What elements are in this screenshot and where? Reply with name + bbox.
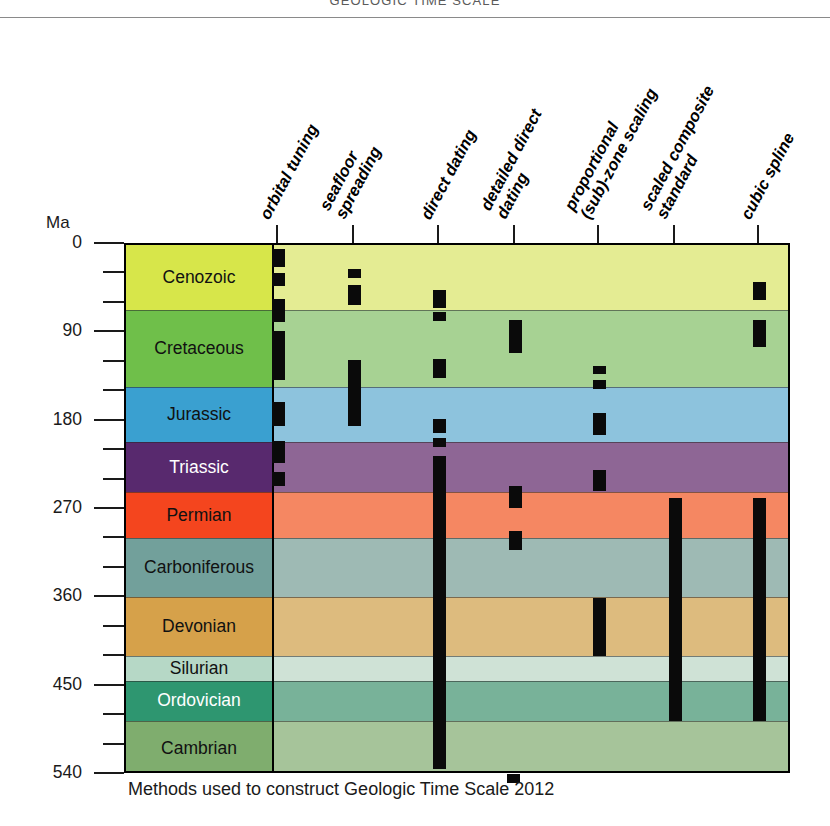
column-tick-direct-dating [437,225,439,243]
period-label-cambrian: Cambrian [126,721,272,773]
method-mark-detailed-direct-dating [509,320,522,353]
axis-tick-minor [103,448,124,450]
method-mark-proportional-zone-scaling [593,470,606,492]
period-boundary-line [126,721,788,722]
axis-tick-major [94,242,124,244]
column-tick-detailed-direct-dating [513,225,515,243]
method-mark-cubic-spline [753,320,766,347]
period-boundary-line [126,538,788,539]
period-plot-strip [272,597,788,656]
method-mark-proportional-zone-scaling [593,380,606,389]
period-band: Triassic [126,442,788,492]
column-headers: orbital tuningseafloor spreadingdirect d… [0,0,830,243]
axis-tick-minor [103,271,124,273]
method-mark-seafloor-spreading [348,269,361,279]
axis-tick-major [94,595,124,597]
method-mark-seafloor-spreading [348,360,361,426]
method-mark-seafloor-spreading [348,285,361,305]
period-label-permian: Permian [126,492,272,538]
axis-tick-minor [103,536,124,538]
method-mark-direct-dating [433,419,446,434]
plot-area: CenozoicCretaceousJurassicTriassicPermia… [124,243,790,773]
period-band: Carboniferous [126,538,788,597]
column-tick-cubic-spline [757,225,759,243]
name-column-divider [272,245,274,771]
period-band: Silurian [126,656,788,681]
period-plot-strip [272,538,788,597]
axis-tick-major [94,507,124,509]
method-mark-scaled-composite-standard [669,498,682,721]
period-plot-strip [272,656,788,681]
method-mark-proportional-zone-scaling [593,598,606,656]
period-band: Devonian [126,597,788,656]
period-plot-strip [272,442,788,492]
axis-tick-label: 270 [20,497,82,518]
period-band: Permian [126,492,788,538]
column-header-detailed-direct-dating[interactable]: detailed direct dating [476,106,561,222]
axis-tick-minor [103,713,124,715]
period-label-cenozoic: Cenozoic [126,245,272,310]
axis-tick-minor [103,301,124,303]
axis-tick-major [94,772,124,774]
axis-tick-minor [103,625,124,627]
column-tick-scaled-composite-standard [673,225,675,243]
column-header-seafloor-spreading[interactable]: seafloor spreading [315,135,385,222]
period-label-jurassic: Jurassic [126,387,272,442]
period-boundary-line [126,387,788,388]
method-mark-orbital-tuning [272,273,285,286]
axis-tick-major [94,419,124,421]
period-boundary-line [126,492,788,493]
method-mark-direct-dating [433,290,446,308]
method-mark-orbital-tuning [272,331,285,380]
method-mark-orbital-tuning [272,441,285,463]
method-mark-proportional-zone-scaling [593,413,606,436]
period-plot-strip [272,721,788,773]
axis-tick-major [94,330,124,332]
axis-unit-label: Ma [46,213,70,233]
figure-caption: Methods used to construct Geologic Time … [128,779,554,800]
period-plot-strip [272,492,788,538]
period-band: Ordovician [126,681,788,721]
method-mark-cubic-spline [753,282,766,300]
method-mark-direct-dating [433,456,446,769]
period-band: Jurassic [126,387,788,442]
method-mark-direct-dating [433,312,446,321]
axis-tick-label: 180 [20,409,82,430]
axis-tick-minor [103,566,124,568]
period-boundary-line [126,656,788,657]
method-mark-cubic-spline [753,498,766,721]
method-mark-direct-dating [433,438,446,447]
method-mark-orbital-tuning [272,472,285,487]
period-label-carboniferous: Carboniferous [126,538,272,597]
method-mark-detailed-direct-dating [509,531,522,551]
column-header-direct-dating[interactable]: direct dating [417,126,480,222]
axis-tick-label: 540 [20,762,82,783]
period-band: Cambrian [126,721,788,773]
geologic-time-scale-figure: GEOLOGIC TIME SCALE orbital tuningseaflo… [0,0,830,826]
period-plot-strip [272,681,788,721]
method-mark-orbital-tuning [272,299,285,322]
axis-tick-minor [103,654,124,656]
axis-tick-label: 450 [20,674,82,695]
method-mark-orbital-tuning [272,249,285,267]
period-boundary-line [126,681,788,682]
axis-tick-minor [103,360,124,362]
period-label-devonian: Devonian [126,597,272,656]
period-boundary-line [126,597,788,598]
axis-tick-label: 90 [20,320,82,341]
column-tick-seafloor-spreading [352,225,354,243]
period-boundary-line [126,442,788,443]
axis-tick-minor [103,389,124,391]
method-mark-detailed-direct-dating [509,486,522,508]
period-label-ordovician: Ordovician [126,681,272,721]
period-label-silurian: Silurian [126,656,272,681]
method-mark-direct-dating [433,359,446,379]
axis-tick-minor [103,743,124,745]
column-header-orbital-tuning[interactable]: orbital tuning [256,120,322,222]
axis-tick-major [94,684,124,686]
method-mark-orbital-tuning [272,402,285,426]
period-label-cretaceous: Cretaceous [126,310,272,388]
method-mark-proportional-zone-scaling [593,366,606,374]
period-band: Cenozoic [126,245,788,310]
column-header-cubic-spline[interactable]: cubic spline [737,129,798,222]
